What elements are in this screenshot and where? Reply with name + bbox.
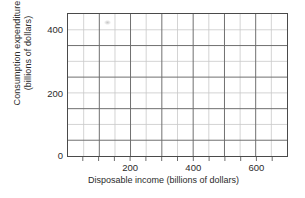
y-tick-label-400: 400 (37, 25, 63, 35)
grid-lines (68, 14, 287, 156)
x-tick-label-600: 600 (236, 162, 276, 174)
plot-area (67, 13, 288, 157)
x-axis-tick-labels: 200 400 600 (67, 162, 288, 175)
y-axis-tick-labels: 400 200 0 (36, 0, 63, 198)
y-axis-title: Consumption expenditure (billions of dol… (12, 0, 34, 128)
y-axis-title-line-1: Consumption expenditure (12, 0, 23, 128)
y-tick-label-200: 200 (37, 89, 63, 99)
chart-figure: Consumption expenditure (billions of dol… (0, 0, 305, 198)
x-axis-title: Disposable income (billions of dollars) (0, 175, 305, 186)
y-axis-title-line-2: (billions of dollars) (23, 0, 34, 128)
x-tick-label-200: 200 (110, 162, 150, 174)
y-tick-label-0: 0 (37, 151, 63, 161)
x-tick-label-400: 400 (173, 162, 213, 174)
